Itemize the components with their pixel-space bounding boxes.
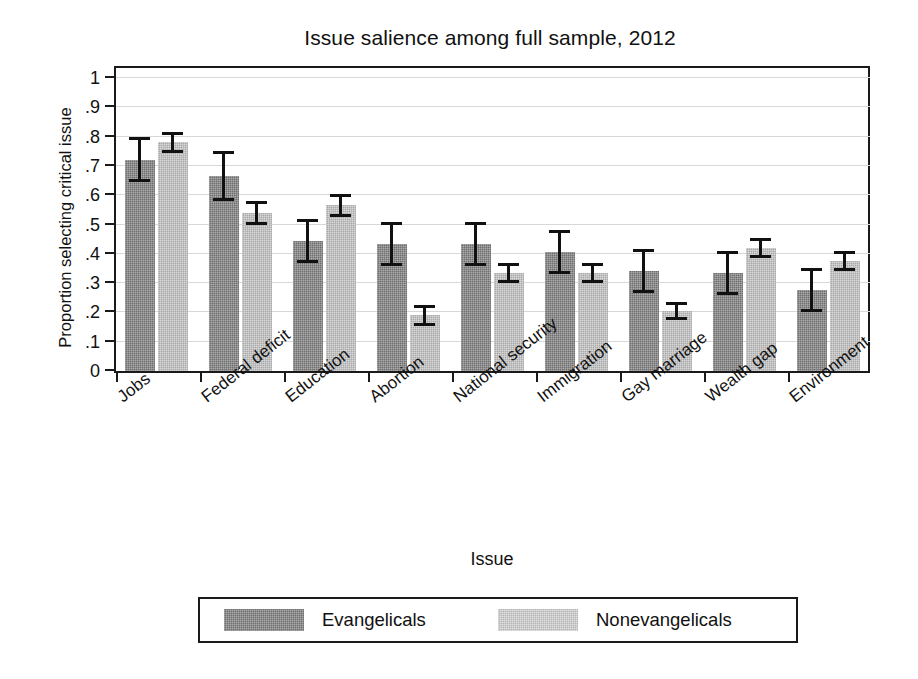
gridline bbox=[116, 136, 870, 137]
error-bar-cap bbox=[213, 151, 234, 154]
chart-figure: Issue salience among full sample, 2012 P… bbox=[0, 0, 918, 679]
legend-swatch-evangelicals bbox=[224, 609, 304, 631]
error-bar-cap bbox=[633, 249, 654, 252]
x-axis-tick bbox=[284, 373, 286, 382]
error-bar-cap bbox=[381, 222, 402, 225]
bar-evangelicals bbox=[209, 176, 239, 371]
legend-swatch-nonevangelicals bbox=[498, 609, 578, 631]
error-bar-cap bbox=[582, 263, 603, 266]
y-axis-tick-label: .7 bbox=[62, 157, 100, 175]
error-bar-cap bbox=[801, 309, 822, 312]
error-bar bbox=[138, 138, 141, 180]
y-axis-tick bbox=[105, 135, 114, 137]
error-bar-cap bbox=[498, 263, 519, 266]
error-bar bbox=[810, 270, 813, 311]
error-bar-cap bbox=[213, 198, 234, 201]
y-axis-tick-label: .8 bbox=[62, 128, 100, 146]
y-axis-tick-label: 1 bbox=[62, 69, 100, 87]
y-axis-tick-label: .2 bbox=[62, 303, 100, 321]
y-axis-tick-label: .9 bbox=[62, 98, 100, 116]
error-bar bbox=[642, 251, 645, 292]
x-axis-tick bbox=[452, 373, 454, 382]
error-bar-cap bbox=[750, 255, 771, 258]
y-axis-tick-label: .5 bbox=[62, 216, 100, 234]
legend-entry-evangelicals: Evangelicals bbox=[224, 599, 426, 641]
x-axis-tick bbox=[536, 373, 538, 382]
error-bar-cap bbox=[465, 263, 486, 266]
bar-evangelicals bbox=[125, 160, 155, 371]
gridline bbox=[116, 165, 870, 166]
x-axis-tick bbox=[788, 373, 790, 382]
error-bar bbox=[759, 239, 762, 257]
error-bar-cap bbox=[801, 268, 822, 271]
error-bar-cap bbox=[246, 222, 267, 225]
error-bar-cap bbox=[162, 150, 183, 153]
y-axis-tick bbox=[105, 369, 114, 371]
y-axis-tick bbox=[105, 193, 114, 195]
error-bar-cap bbox=[414, 305, 435, 308]
y-axis-tick-label: .6 bbox=[62, 186, 100, 204]
error-bar bbox=[591, 264, 594, 282]
error-bar-cap bbox=[297, 260, 318, 263]
error-bar-cap bbox=[162, 132, 183, 135]
error-bar-cap bbox=[330, 214, 351, 217]
error-bar-cap bbox=[633, 290, 654, 293]
plot-frame-top bbox=[114, 66, 870, 68]
y-axis-tick bbox=[105, 223, 114, 225]
error-bar-cap bbox=[666, 317, 687, 320]
gridline bbox=[116, 106, 870, 107]
error-bar bbox=[726, 252, 729, 293]
error-bar-cap bbox=[549, 271, 570, 274]
plot-area: 0.1.2.3.4.5.6.7.8.91 bbox=[114, 66, 870, 373]
error-bar-cap bbox=[717, 292, 738, 295]
legend-entry-nonevangelicals: Nonevangelicals bbox=[498, 599, 732, 641]
x-axis-tick bbox=[620, 373, 622, 382]
error-bar-cap bbox=[834, 268, 855, 271]
chart-legend: Evangelicals Nonevangelicals bbox=[198, 597, 798, 643]
legend-label-evangelicals: Evangelicals bbox=[322, 609, 426, 631]
error-bar-cap bbox=[834, 251, 855, 254]
error-bar-cap bbox=[414, 323, 435, 326]
error-bar-cap bbox=[129, 137, 150, 140]
error-bar-cap bbox=[129, 179, 150, 182]
x-axis-tick bbox=[116, 373, 118, 382]
y-axis-tick bbox=[105, 340, 114, 342]
y-axis-tick bbox=[105, 76, 114, 78]
gridline bbox=[116, 77, 870, 78]
error-bar bbox=[171, 134, 174, 152]
x-axis-tick bbox=[200, 373, 202, 382]
y-axis-tick-label: .3 bbox=[62, 274, 100, 292]
error-bar-cap bbox=[330, 194, 351, 197]
error-bar-cap bbox=[498, 280, 519, 283]
y-axis-tick bbox=[105, 252, 114, 254]
error-bar-cap bbox=[381, 263, 402, 266]
error-bar bbox=[507, 264, 510, 282]
error-bar-cap bbox=[297, 219, 318, 222]
error-bar-cap bbox=[582, 280, 603, 283]
y-axis-tick bbox=[105, 281, 114, 283]
bar-nonevangelicals bbox=[158, 142, 188, 371]
y-axis-tick-label: .4 bbox=[62, 245, 100, 263]
error-bar-cap bbox=[666, 302, 687, 305]
error-bar-cap bbox=[549, 230, 570, 233]
y-axis-tick-label: 0 bbox=[62, 362, 100, 380]
y-axis-tick bbox=[105, 310, 114, 312]
error-bar bbox=[339, 195, 342, 216]
error-bar-cap bbox=[750, 238, 771, 241]
legend-label-nonevangelicals: Nonevangelicals bbox=[596, 609, 732, 631]
error-bar-cap bbox=[465, 222, 486, 225]
x-axis-tick-label: Jobs bbox=[114, 369, 155, 407]
error-bar bbox=[843, 252, 846, 270]
error-bar-cap bbox=[717, 251, 738, 254]
x-axis-tick bbox=[368, 373, 370, 382]
y-axis-tick bbox=[105, 164, 114, 166]
error-bar bbox=[558, 232, 561, 273]
error-bar bbox=[222, 153, 225, 200]
error-bar bbox=[423, 307, 426, 325]
x-axis-title: Issue bbox=[114, 549, 870, 570]
error-bar bbox=[390, 223, 393, 264]
y-axis-line bbox=[114, 66, 116, 373]
plot-frame-right bbox=[868, 66, 870, 373]
error-bar bbox=[474, 223, 477, 264]
x-axis-tick bbox=[704, 373, 706, 382]
